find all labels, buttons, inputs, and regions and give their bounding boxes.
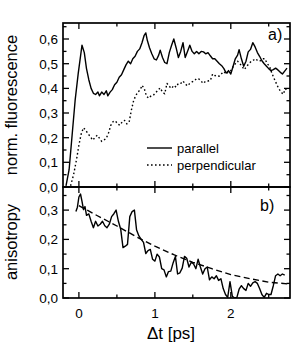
y-tick-label: 0,1 (39, 262, 58, 277)
y-tick-label: 0,1 (39, 155, 58, 170)
two-panel-line-chart: 0,00,10,20,30,40,50,6 0,00,10,20,3012 no… (0, 0, 299, 359)
y-tick-label: 0,0 (39, 291, 58, 306)
panel-b: 0,00,10,20,3012 (39, 187, 290, 321)
y-tick-label: 0,6 (39, 32, 58, 47)
panel-b-label: b) (260, 197, 274, 214)
legend-label-perpendicular: perpendicular (177, 158, 256, 173)
y-tick-label: 0,3 (39, 203, 58, 218)
panel-a-y-axis-title: norm. fluorescence (2, 35, 20, 175)
y-tick-label: 0,2 (39, 232, 58, 247)
series-anisotropy-measured- (76, 194, 285, 298)
series-anisotropy-decay-fit (79, 206, 288, 284)
panel-b-frame (63, 187, 290, 298)
x-tick-label: 1 (151, 306, 159, 321)
x-tick-label: 0 (75, 306, 83, 321)
y-tick-label: 0,5 (39, 57, 58, 72)
y-tick-label: 0,0 (39, 180, 58, 195)
y-tick-label: 0,3 (39, 106, 58, 121)
panel-b-y-axis-title: anisotropy (2, 203, 20, 280)
x-tick-label: 2 (227, 306, 235, 321)
legend: parallel perpendicular (147, 141, 256, 173)
y-tick-label: 0,4 (39, 81, 58, 96)
panel-a-label: a) (268, 26, 282, 43)
x-axis-title: Δt [ps] (147, 324, 195, 343)
y-tick-label: 0,2 (39, 131, 58, 146)
legend-label-parallel: parallel (177, 141, 219, 156)
fluorescence-anisotropy-figure: 0,00,10,20,30,40,50,6 0,00,10,20,3012 no… (0, 0, 299, 359)
